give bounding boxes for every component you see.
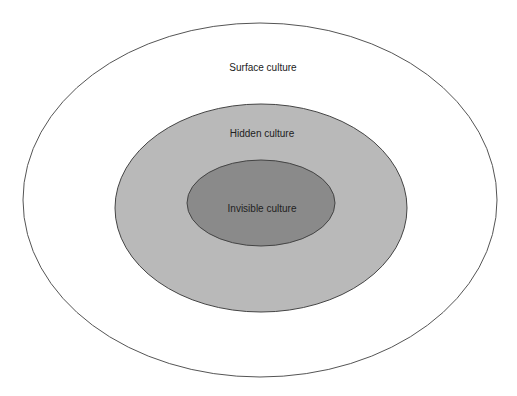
hidden-culture-label: Hidden culture <box>230 128 294 139</box>
surface-culture-label: Surface culture <box>229 62 296 73</box>
invisible-culture-label: Invisible culture <box>228 203 297 214</box>
culture-layers-diagram <box>0 0 517 396</box>
